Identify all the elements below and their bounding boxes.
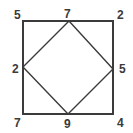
label-bottom-right: 4: [117, 117, 124, 129]
label-bottom-center: 9: [64, 118, 71, 130]
label-top-center: 7: [64, 8, 71, 20]
label-top-right: 2: [117, 9, 124, 21]
geometry-figure: 5 7 2 2 5 7 9 4: [0, 0, 133, 133]
label-top-left: 5: [14, 9, 21, 21]
label-bottom-left: 7: [14, 117, 21, 129]
label-middle-left: 2: [12, 63, 19, 75]
label-middle-right: 5: [119, 63, 126, 75]
